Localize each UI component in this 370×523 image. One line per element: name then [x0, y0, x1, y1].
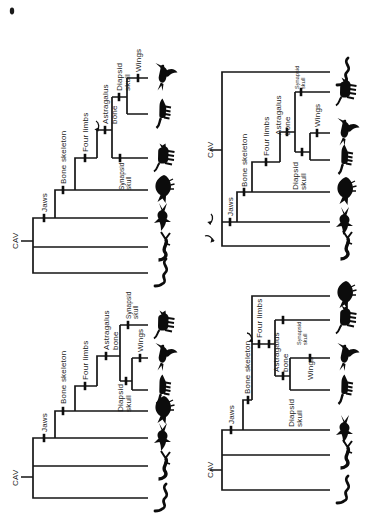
- bird-silhouette: [156, 63, 178, 91]
- character-label-diapsid-skull: skull: [299, 173, 308, 190]
- perch-silhouette: [155, 396, 174, 424]
- character-label-diapsid-skull: skull: [123, 74, 132, 91]
- character-label-astragalus: Astragalus: [272, 332, 281, 372]
- shark-silhouette: [154, 203, 171, 231]
- shark-silhouette: [336, 207, 353, 235]
- figure-page: CAV Jaws Bone skeleton Four limbs Astrag…: [0, 0, 370, 523]
- cat-silhouette: [154, 144, 175, 172]
- character-label-jaws: Jaws: [40, 413, 49, 432]
- character-label-wings: Wings: [306, 357, 315, 380]
- crocodile-silhouette: [157, 99, 172, 129]
- crocodile-silhouette: [339, 375, 354, 405]
- character-label-diapsid-skull: skull: [295, 410, 304, 427]
- character-label-astragalus: Astragalus: [274, 95, 283, 135]
- perch-silhouette: [155, 175, 174, 203]
- character-label-four-limbs: Four limbs: [81, 113, 90, 152]
- character-label-jaws: Jaws: [40, 193, 49, 212]
- root-label: CAV: [11, 232, 20, 249]
- cat-silhouette: [336, 78, 357, 106]
- character-label-diapsid-skull: skull: [124, 395, 133, 412]
- bird-silhouette: [338, 343, 360, 371]
- bird-silhouette: [156, 343, 178, 371]
- character-label-astragalus-bone: bone: [283, 116, 292, 135]
- root-label: CAV: [11, 469, 20, 486]
- tree-branches: [210, 296, 330, 490]
- node-rotation-arrow: [204, 234, 215, 244]
- character-label-bone-skeleton: Bone skeleton: [243, 341, 252, 394]
- crocodile-silhouette: [339, 145, 354, 175]
- lamprey-silhouette: [159, 232, 171, 260]
- character-label-bone-skeleton: Bone skeleton: [59, 351, 68, 404]
- character-label-bone-skeleton: Bone skeleton: [59, 131, 68, 184]
- cladogram-panel-bottom-left: CAV Jaws Bone skeleton Four limbs Astrag…: [11, 291, 178, 511]
- perch-silhouette: [337, 177, 356, 205]
- character-label-synapsid-skull: skull: [302, 333, 308, 345]
- shark-silhouette: [154, 423, 171, 451]
- character-label-astragalus-bone: bone: [281, 353, 290, 372]
- character-label-wings: Wings: [313, 104, 322, 127]
- character-label-four-limbs: Four limbs: [262, 117, 271, 156]
- tree-branches: [21, 78, 148, 273]
- lamprey-silhouette: [341, 440, 353, 468]
- character-label-synapsid-skull: skull: [125, 176, 132, 190]
- character-label-synapsid-skull: skull: [132, 305, 139, 319]
- character-label-wings: Wings: [134, 49, 143, 72]
- character-label-astragalus: Astragalus: [101, 84, 110, 124]
- shark-silhouette: [336, 415, 353, 443]
- character-label-bone-skeleton: Bone skeleton: [240, 134, 249, 187]
- character-label-astragalus: Astragalus: [102, 310, 111, 350]
- character-label-jaws: Jaws: [227, 405, 236, 424]
- hagfish-silhouette: [155, 484, 167, 511]
- cat-silhouette: [336, 306, 357, 334]
- cladogram-panel-top-left: CAV Jaws Bone skeleton Four limbs Astrag…: [11, 49, 178, 286]
- root-label: CAV: [206, 141, 215, 158]
- node-rotation-arrow: [207, 214, 214, 225]
- character-label-four-limbs: Four limbs: [255, 299, 264, 338]
- cladogram-panel-top-right: CAV Jaws Bone skeleton Four limbs Astrag…: [204, 58, 360, 259]
- bird-silhouette: [338, 118, 360, 146]
- tree-branches: [210, 72, 330, 246]
- character-label-wings: Wings: [136, 329, 145, 352]
- cat-silhouette: [154, 311, 175, 339]
- character-label-astragalus-bone: bone: [111, 331, 120, 350]
- character-label-astragalus-bone: bone: [110, 105, 119, 124]
- perch-silhouette: [337, 281, 356, 309]
- character-label-jaws: Jaws: [226, 197, 235, 216]
- cladogram-figure: CAV Jaws Bone skeleton Four limbs Astrag…: [0, 0, 370, 523]
- hagfish-silhouette: [337, 476, 349, 503]
- node-rotation-arrow: [94, 121, 98, 132]
- lamprey-silhouette: [341, 231, 353, 259]
- character-label-synapsid-skull: skull: [300, 77, 306, 89]
- hagfish-silhouette: [155, 259, 167, 286]
- character-label-four-limbs: Four limbs: [81, 341, 90, 380]
- cladogram-panel-bottom-right: CAV Jaws Bone skeleton Four limbs Astrag…: [206, 281, 360, 503]
- lamprey-silhouette: [159, 451, 171, 479]
- root-label: CAV: [206, 461, 215, 478]
- print-artifact: [10, 8, 14, 15]
